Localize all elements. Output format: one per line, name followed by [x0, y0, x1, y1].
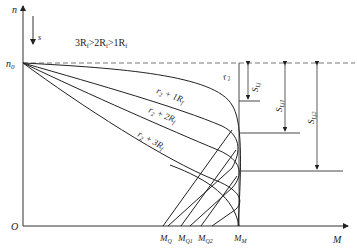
n0-label: n0	[6, 58, 15, 71]
slj1-label: SLj1	[274, 99, 285, 112]
curve-r2	[23, 63, 240, 226]
tick-mm: MM	[233, 233, 248, 244]
curve-label-r2-3rf: r2 + 3Rf	[136, 129, 168, 153]
curve-label-r2-1rf: r2 + 1Rf	[155, 85, 187, 106]
curve-mm-arc	[170, 165, 239, 226]
slj2-label: SLj2	[306, 111, 317, 124]
y-axis-label: n	[12, 4, 17, 15]
slj-label: SLj	[250, 82, 261, 92]
curve-label-r2: r2	[221, 70, 231, 83]
x-axis-label: M	[332, 234, 342, 245]
slip-label: s	[38, 33, 41, 42]
origin-label: O	[11, 221, 18, 232]
condition-label: 3Rf>2Rf>1Rf	[75, 37, 127, 49]
tick-mq1: MQ1	[177, 233, 193, 244]
tick-mq2: MQ2	[197, 233, 213, 244]
curve-mq2-line	[201, 176, 237, 226]
tick-mq: MQ	[159, 233, 173, 244]
torque-speed-diagram: n s n0 O M 3Rf>2Rf>1Rf r2 r2 + 1Rf r2 + …	[0, 0, 357, 252]
